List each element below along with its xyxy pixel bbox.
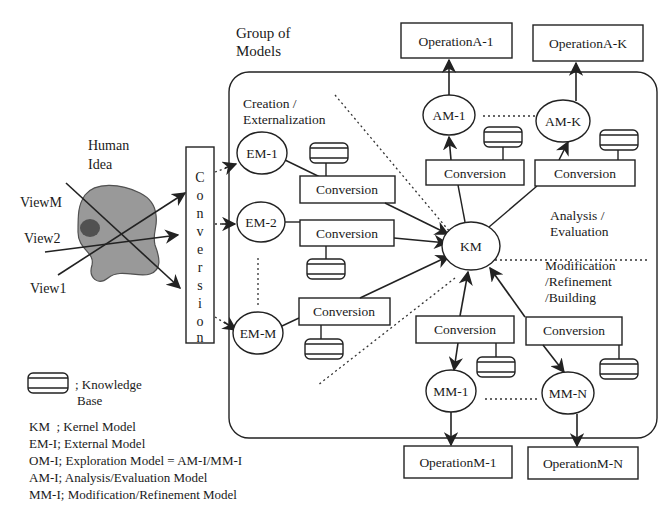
- knowledge-base-icon: [600, 345, 638, 379]
- svg-text:OM-I; Exploration Model = AM-I: OM-I; Exploration Model = AM-I/MM-I: [29, 453, 242, 468]
- vertical-conversion-box: C o n v e r s i o n: [186, 147, 214, 345]
- svg-text:EM-M: EM-M: [240, 326, 277, 341]
- svg-text:MM-1: MM-1: [433, 384, 468, 399]
- svg-text:Human: Human: [88, 138, 129, 153]
- knowledge-base-icon: [477, 343, 515, 377]
- svg-text:Conversion: Conversion: [554, 166, 616, 181]
- external-model-em-m: EM-M Conversion: [233, 298, 390, 359]
- svg-text:MM-N: MM-N: [549, 386, 588, 401]
- svg-text:AM-I; Analysis/Evaluation Mode: AM-I; Analysis/Evaluation Model: [29, 470, 208, 485]
- analysis-model-am-1: OperationA-1 AM-1 Conversion: [401, 23, 524, 185]
- svg-text:i: i: [198, 296, 202, 311]
- conv-to-amk-arrow: [559, 142, 568, 160]
- svg-text:Idea: Idea: [88, 157, 113, 172]
- svg-text:n: n: [197, 206, 204, 221]
- svg-text:v: v: [197, 224, 204, 239]
- analysis-model-am-k: OperationA-K AM-K Conversion: [533, 25, 643, 186]
- conv-to-mm1-arrow: [454, 343, 458, 370]
- models-diagram: Group of Models Creation / Externalizati…: [0, 0, 666, 509]
- knowledge-base-legend-icon: [28, 373, 68, 393]
- svg-text:Conversion: Conversion: [444, 166, 506, 181]
- svg-text:KM: KM: [460, 239, 482, 254]
- km-to-amk-conv-line: [489, 186, 537, 227]
- external-model-em-2: EM-2 Conversion: [237, 202, 394, 279]
- svg-text:Conversion: Conversion: [313, 304, 375, 319]
- svg-text:OperationA-K: OperationA-K: [549, 36, 627, 51]
- knowledge-base-icon: [310, 143, 348, 176]
- svg-text:AM-1: AM-1: [433, 108, 466, 123]
- conv-to-mmn-arrow: [543, 345, 564, 372]
- svg-text:o: o: [197, 188, 204, 203]
- view-label-m: ViewM: [20, 195, 62, 210]
- svg-text:C: C: [195, 170, 204, 185]
- km-to-am1-conv-line: [458, 185, 465, 222]
- svg-text:Analysis /: Analysis /: [550, 208, 605, 223]
- knowledge-base-icon: [600, 130, 638, 160]
- svg-text:/Refinement: /Refinement: [545, 274, 612, 289]
- svg-text:e: e: [197, 242, 203, 257]
- view-label-2: View2: [24, 231, 60, 246]
- section-creation-label: Creation / Externalization: [243, 96, 326, 127]
- human-idea-core: [80, 219, 100, 237]
- svg-text:Modification: Modification: [545, 258, 616, 273]
- legend: ; Knowledge Base KM ; Kernel Model EM-I;…: [28, 373, 242, 502]
- human-idea: Human Idea ViewM View2 View1: [20, 138, 185, 296]
- svg-text:Models: Models: [236, 43, 281, 59]
- conv-to-am1-arrow: [449, 137, 451, 160]
- svg-text:AM-K: AM-K: [545, 114, 581, 129]
- svg-text:s: s: [197, 278, 202, 293]
- svg-text:Conversion: Conversion: [543, 323, 605, 338]
- svg-text:Conversion: Conversion: [434, 322, 496, 337]
- knowledge-base-icon: [484, 127, 522, 160]
- svg-text:Conversion: Conversion: [316, 182, 378, 197]
- section-analysis-label: Analysis / Evaluation: [550, 208, 609, 239]
- group-of-models-title: Group of Models: [236, 25, 291, 59]
- svg-text:Base: Base: [77, 393, 103, 408]
- svg-text:OperationA-1: OperationA-1: [419, 34, 494, 49]
- conv-to-em1-arrow: [225, 164, 236, 168]
- svg-text:EM-I; External Model: EM-I; External Model: [29, 436, 146, 451]
- svg-text:Creation /: Creation /: [243, 96, 297, 111]
- svg-text:; Knowledge: ; Knowledge: [75, 377, 142, 392]
- emm-to-km-arrow: [360, 256, 449, 298]
- svg-text:o: o: [197, 314, 204, 329]
- svg-text:EM-2: EM-2: [245, 215, 277, 230]
- knowledge-base-icon: [307, 246, 345, 279]
- svg-text:OperationM-1: OperationM-1: [419, 455, 496, 470]
- modification-model-mm-n: Conversion MM-N OperationM-N: [526, 317, 638, 479]
- modification-model-mm-1: Conversion MM-1 OperationM-1: [404, 316, 515, 478]
- em2-to-km-arrow: [394, 238, 447, 243]
- svg-text:n: n: [197, 330, 204, 345]
- knowledge-base-icon: [305, 325, 343, 359]
- svg-text:/Building: /Building: [545, 290, 596, 305]
- svg-text:Evaluation: Evaluation: [550, 224, 609, 239]
- section-modification-label: Modification /Refinement /Building: [545, 258, 616, 305]
- mmn-conv-to-km-arrow: [490, 268, 525, 317]
- svg-text:KM ; Kernel Model: KM ; Kernel Model: [29, 419, 136, 434]
- svg-text:Conversion: Conversion: [316, 226, 378, 241]
- svg-text:r: r: [198, 260, 203, 275]
- external-model-em-1: EM-1 Conversion: [237, 132, 395, 203]
- svg-text:Externalization: Externalization: [243, 112, 326, 127]
- kernel-model-km: KM: [442, 222, 500, 270]
- svg-text:OperationM-N: OperationM-N: [543, 456, 623, 471]
- svg-text:MM-I; Modification/Refinement: MM-I; Modification/Refinement Model: [29, 487, 237, 502]
- svg-text:EM-1: EM-1: [246, 146, 278, 161]
- mm1-conv-to-km-arrow: [460, 272, 468, 316]
- view-label-1: View1: [30, 281, 66, 296]
- svg-text:Group of: Group of: [236, 25, 291, 41]
